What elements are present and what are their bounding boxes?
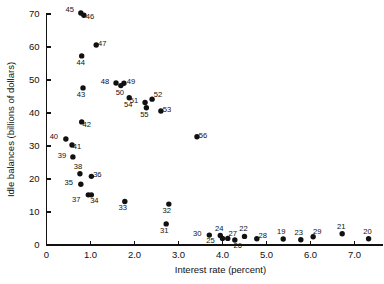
x-tick-label-2.0: 2.0 xyxy=(128,249,141,260)
x-tick-label-3.0: 3.0 xyxy=(172,249,185,260)
data-point-label-52: 52 xyxy=(154,90,162,99)
data-point-label-22: 22 xyxy=(239,224,247,233)
data-point-51 xyxy=(142,100,147,105)
data-point-23 xyxy=(298,237,303,242)
data-point-label-56: 56 xyxy=(199,131,207,140)
y-tick-label-30: 30 xyxy=(29,140,40,151)
data-point-label-32: 32 xyxy=(163,206,171,215)
data-point-label-43: 43 xyxy=(77,90,85,99)
data-point-label-24: 24 xyxy=(215,224,223,233)
data-point-38 xyxy=(77,171,82,176)
x-tick-label-5.0: 5.0 xyxy=(260,249,273,260)
axis-titles: Interest rate (percent)Idle balances (bi… xyxy=(5,62,266,275)
y-tick-label-40: 40 xyxy=(29,107,40,118)
data-point-25 xyxy=(220,236,225,241)
data-point-label-48: 48 xyxy=(101,77,109,86)
data-point-39 xyxy=(70,154,75,159)
data-points: 4546474448495043545251555342564041393836… xyxy=(50,5,372,250)
y-tick-label-70: 70 xyxy=(29,8,40,19)
data-point-label-25: 25 xyxy=(206,236,214,245)
tick-marks xyxy=(47,14,355,245)
data-point-label-55: 55 xyxy=(140,110,148,119)
data-point-48 xyxy=(113,80,118,85)
data-point-label-36: 36 xyxy=(93,170,101,179)
x-tick-label-0: 0 xyxy=(44,249,49,260)
y-tick-label-10: 10 xyxy=(29,206,40,217)
scatter-chart: 01020304050607001.02.03.04.05.06.07.0 45… xyxy=(0,0,384,284)
tick-labels: 01020304050607001.02.03.04.05.06.07.0 xyxy=(29,8,361,260)
data-point-label-30: 30 xyxy=(193,229,201,238)
data-point-label-20: 20 xyxy=(363,227,371,236)
data-point-label-46: 46 xyxy=(86,12,94,21)
data-point-22 xyxy=(242,234,247,239)
data-point-21 xyxy=(339,231,344,236)
x-tick-label-7.0: 7.0 xyxy=(348,249,361,260)
x-tick-label-1.0: 1.0 xyxy=(84,249,97,260)
y-tick-label-20: 20 xyxy=(29,173,40,184)
data-point-label-49: 49 xyxy=(127,77,135,86)
data-point-label-19: 19 xyxy=(277,227,285,236)
data-point-label-51: 51 xyxy=(130,96,138,105)
data-point-label-42: 42 xyxy=(82,120,90,129)
data-point-label-50: 50 xyxy=(116,88,124,97)
data-point-label-27: 27 xyxy=(229,229,237,238)
y-axis-title: Idle balances (billions of dollars) xyxy=(5,62,16,197)
axes xyxy=(47,13,383,245)
data-point-label-31: 31 xyxy=(160,226,168,235)
data-point-20 xyxy=(366,236,371,241)
data-point-label-21: 21 xyxy=(337,222,345,231)
data-point-label-39: 39 xyxy=(58,151,66,160)
data-point-40 xyxy=(63,136,68,141)
data-point-35 xyxy=(78,182,83,187)
data-point-label-45: 45 xyxy=(66,5,74,14)
data-point-label-35: 35 xyxy=(65,178,73,187)
data-point-label-29: 29 xyxy=(313,227,321,236)
data-point-label-44: 44 xyxy=(76,58,84,67)
data-point-label-40: 40 xyxy=(50,132,58,141)
x-tick-label-4.0: 4.0 xyxy=(216,249,229,260)
x-tick-label-6.0: 6.0 xyxy=(304,249,317,260)
data-point-label-47: 47 xyxy=(98,39,106,48)
axis-lines xyxy=(47,13,383,245)
data-point-label-23: 23 xyxy=(295,228,303,237)
data-point-label-26: 26 xyxy=(234,241,242,250)
data-point-label-37: 37 xyxy=(72,195,80,204)
data-point-label-33: 33 xyxy=(119,203,127,212)
y-tick-label-60: 60 xyxy=(29,41,40,52)
data-point-label-41: 41 xyxy=(73,142,81,151)
x-axis-title: Interest rate (percent) xyxy=(175,264,266,275)
data-point-19 xyxy=(281,236,286,241)
y-tick-label-50: 50 xyxy=(29,74,40,85)
y-tick-label-0: 0 xyxy=(34,239,39,250)
data-point-label-53: 53 xyxy=(163,105,171,114)
plot-area: 01020304050607001.02.03.04.05.06.07.0 45… xyxy=(0,0,384,284)
data-point-label-28: 28 xyxy=(259,231,267,240)
data-point-label-34: 34 xyxy=(90,196,98,205)
data-point-label-38: 38 xyxy=(74,162,82,171)
